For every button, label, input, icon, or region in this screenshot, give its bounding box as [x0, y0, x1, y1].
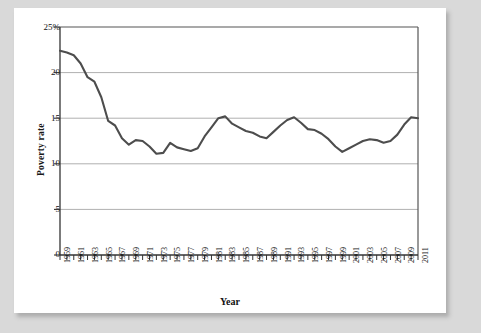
- x-tick-label: 1963: [91, 247, 100, 263]
- x-tick-label: 2001: [352, 247, 361, 263]
- chart-figure: Poverty rate 25% 20 15 10 5 0: [14, 8, 446, 313]
- x-tick-label: 2009: [407, 247, 416, 263]
- x-tick-label: 2003: [366, 247, 375, 263]
- x-tick-label: 1987: [256, 247, 265, 263]
- x-tick-label: 2011: [421, 247, 430, 263]
- x-tick-label: 1977: [187, 247, 196, 263]
- x-tick-label: 1965: [105, 247, 114, 263]
- x-tick-label: 1971: [146, 247, 155, 263]
- x-tick-label: 2005: [380, 247, 389, 263]
- x-tick-label: 1993: [297, 247, 306, 263]
- x-tick-label: 1959: [63, 247, 72, 263]
- y-axis-ticks: [54, 27, 60, 255]
- figure-paper: Poverty rate 25% 20 15 10 5 0: [14, 8, 446, 313]
- x-tick-label: 1969: [132, 247, 141, 263]
- x-tick-label: 1995: [311, 247, 320, 263]
- x-tick-label: 1961: [77, 247, 86, 263]
- x-tick-label: 1973: [160, 247, 169, 263]
- plot-canvas: [14, 8, 446, 313]
- x-axis-title: Year: [14, 296, 446, 307]
- page-background: Poverty rate 25% 20 15 10 5 0: [0, 0, 481, 333]
- x-tick-label: 1981: [215, 247, 224, 263]
- x-tick-label: 1989: [270, 247, 279, 263]
- x-tick-label: 2007: [394, 247, 403, 263]
- x-tick-label: 1967: [118, 247, 127, 263]
- x-tick-label: 1983: [228, 247, 237, 263]
- x-tick-label: 1975: [173, 247, 182, 263]
- x-tick-label: 1985: [242, 247, 251, 263]
- x-tick-label: 1997: [325, 247, 334, 263]
- x-tick-label: 1999: [339, 247, 348, 263]
- x-tick-label: 1979: [201, 247, 210, 263]
- x-tick-label: 1991: [284, 247, 293, 263]
